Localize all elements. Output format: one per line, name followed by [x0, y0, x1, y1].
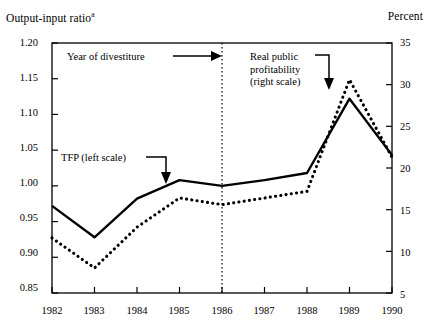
chart-figure: Output-input ratioa Percent 1.20 1.15 1.… — [0, 0, 427, 328]
arrow-head-real-public-profitability — [324, 78, 334, 90]
chart-canvas — [0, 0, 427, 328]
y-axis-left-ticks — [52, 43, 58, 293]
annotation-arrows — [146, 51, 334, 184]
arrow-head-year-of-divestiture — [211, 51, 222, 61]
arrow-head-tfp — [161, 172, 171, 184]
arrow-line-real-public-profitability — [315, 55, 329, 78]
arrow-line-tfp — [146, 157, 166, 172]
y-axis-right-ticks — [386, 43, 392, 293]
